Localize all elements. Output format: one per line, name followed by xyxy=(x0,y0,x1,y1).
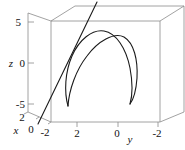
x-tick-0 xyxy=(36,117,39,119)
curve-arc-back xyxy=(66,31,132,106)
plot-3d-container: 5 z 0 -5 2 x 0 -2 2 0 y -2 xyxy=(0,0,185,150)
box-left-top-receding-edge xyxy=(28,13,51,21)
z-tick-label-neg5: -5 xyxy=(16,98,26,110)
z-axis-ticks xyxy=(28,22,34,104)
plot-3d-canvas: 5 z 0 -5 2 x 0 -2 2 0 y -2 xyxy=(0,0,185,150)
y-tick-label-2: 2 xyxy=(74,127,80,139)
bounding-box-wireframe xyxy=(28,6,184,122)
x-tick-neg2 xyxy=(48,122,51,124)
box-top-face-edge xyxy=(51,6,184,21)
space-curve xyxy=(66,31,137,106)
z-tick-label-5: 5 xyxy=(16,16,22,28)
x-tick-label-0: 0 xyxy=(28,123,34,135)
x-tick-label-neg2: -2 xyxy=(40,126,49,138)
z-axis-label: z xyxy=(8,57,14,69)
y-axis-label: y xyxy=(127,133,133,145)
y-tick-label-neg2: -2 xyxy=(152,127,161,139)
x-axis-label: x xyxy=(13,124,19,136)
curve-arc-front xyxy=(68,36,137,106)
x-tick-label-2: 2 xyxy=(19,111,25,123)
y-tick-label-0: 0 xyxy=(114,127,120,139)
box-right-bottom-receding-edge xyxy=(160,112,184,122)
z-tick-label-0: 0 xyxy=(20,57,26,69)
